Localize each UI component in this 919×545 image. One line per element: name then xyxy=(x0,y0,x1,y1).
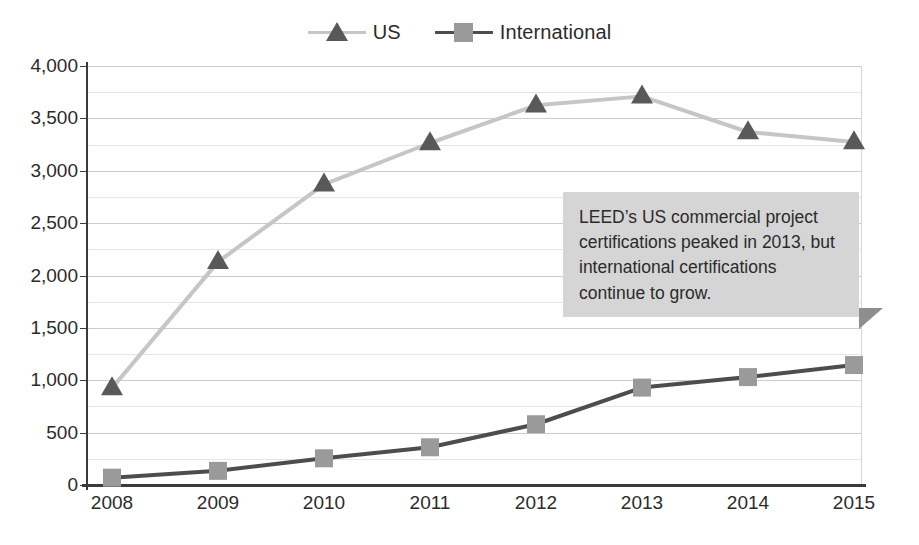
y-axis-tick xyxy=(80,380,87,381)
y-axis-tick xyxy=(80,485,87,486)
data-point-marker[interactable] xyxy=(209,462,227,480)
y-axis-tick xyxy=(80,118,87,119)
data-point-marker[interactable] xyxy=(103,469,121,487)
data-point-marker[interactable] xyxy=(845,356,863,374)
y-axis-tick xyxy=(80,276,87,277)
y-axis-tick xyxy=(80,328,87,329)
callout-tail-icon xyxy=(859,308,883,329)
callout-text: LEED’s US commercial project certificati… xyxy=(579,205,843,306)
y-axis-tick xyxy=(80,171,87,172)
y-axis-tick xyxy=(80,223,87,224)
data-point-marker[interactable] xyxy=(421,438,439,456)
line-chart: US International 05001,0001,5002,0002,50… xyxy=(0,0,919,545)
data-point-marker[interactable] xyxy=(207,250,229,269)
data-point-marker[interactable] xyxy=(315,449,333,467)
callout-annotation: LEED’s US commercial project certificati… xyxy=(563,192,859,317)
data-point-marker[interactable] xyxy=(633,379,651,397)
data-point-marker[interactable] xyxy=(739,368,757,386)
data-point-marker[interactable] xyxy=(527,415,545,433)
data-point-marker[interactable] xyxy=(631,85,653,104)
y-axis-tick xyxy=(80,433,87,434)
y-axis-tick xyxy=(80,66,87,67)
